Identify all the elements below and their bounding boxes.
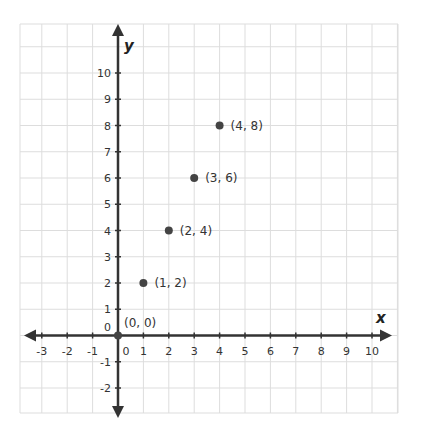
data-point (190, 174, 198, 182)
x-tick-label: 2 (165, 345, 172, 358)
point-label: (1, 2) (154, 276, 186, 290)
x-tick-label: 7 (292, 345, 299, 358)
y-tick-label: -2 (100, 382, 111, 395)
y-tick-label: -1 (100, 356, 111, 369)
y-tick-label: 2 (104, 277, 111, 290)
grid-lines (20, 24, 398, 413)
x-tick-label: 10 (365, 345, 379, 358)
point-label: (0, 0) (124, 316, 156, 330)
data-point (216, 122, 224, 130)
data-point (165, 227, 173, 235)
x-tick-label: 4 (216, 345, 223, 358)
y-tick-label: 4 (104, 225, 111, 238)
axes (24, 24, 392, 418)
y-axis-up-arrow-icon (112, 24, 124, 36)
y-tick-label: 9 (104, 93, 111, 106)
y-tick-label: 3 (104, 251, 111, 264)
x-tick-label: 8 (318, 345, 325, 358)
y-tick-label: 5 (104, 198, 111, 211)
x-tick-label: 9 (343, 345, 350, 358)
x-tick-label: -2 (62, 345, 73, 358)
data-point (139, 279, 147, 287)
coordinate-plane: -3-2-1012345678910-2-1012345678910 (0, 0… (0, 0, 421, 431)
x-tick-label: 1 (140, 345, 147, 358)
x-tick-label: 6 (267, 345, 274, 358)
x-axis-title: x (375, 309, 387, 327)
y-tick-label: 0 (104, 321, 111, 334)
point-label: (4, 8) (231, 119, 263, 133)
x-tick-label: 0 (123, 345, 130, 358)
y-tick-label: 8 (104, 120, 111, 133)
point-label: (3, 6) (205, 171, 237, 185)
point-label: (2, 4) (180, 224, 212, 238)
y-axis-title: y (124, 37, 135, 55)
x-axis-left-arrow-icon (24, 330, 36, 342)
y-tick-label: 6 (104, 172, 111, 185)
x-axis-right-arrow-icon (380, 330, 392, 342)
x-tick-label: 3 (191, 345, 198, 358)
x-tick-label: -1 (87, 345, 98, 358)
y-tick-label: 10 (97, 67, 111, 80)
data-point (114, 332, 122, 340)
y-axis-down-arrow-icon (112, 406, 124, 418)
x-tick-label: -3 (36, 345, 47, 358)
y-tick-label: 1 (104, 303, 111, 316)
x-tick-label: 5 (242, 345, 249, 358)
y-tick-label: 7 (104, 146, 111, 159)
